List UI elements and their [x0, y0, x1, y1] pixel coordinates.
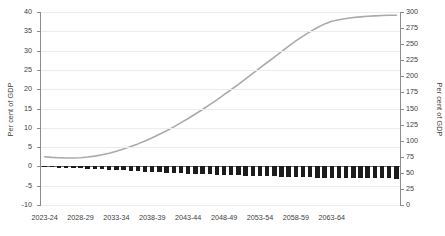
- bar: [143, 166, 147, 171]
- bar: [394, 166, 398, 178]
- gridline: [41, 31, 400, 32]
- chart-container: Per cent of GDP Per cent of GDP 40353025…: [0, 0, 445, 236]
- y-axis-left-tick: [37, 186, 40, 187]
- bar: [322, 166, 326, 177]
- bar: [301, 166, 305, 177]
- bar: [150, 166, 154, 172]
- y-axis-right-tick-label: 275: [406, 24, 432, 32]
- gridline: [41, 186, 400, 187]
- y-axis-left-tick-label: 25: [6, 66, 32, 74]
- bar: [351, 166, 355, 178]
- x-axis-tick-label: 2053-54: [240, 213, 280, 222]
- debt-line-path: [45, 15, 397, 158]
- x-axis-tick-label: 2048-49: [204, 213, 244, 222]
- bar: [373, 166, 377, 178]
- y-axis-right-tick-label: 125: [406, 121, 432, 129]
- bar: [365, 166, 369, 178]
- gridline: [41, 128, 400, 129]
- bar: [236, 166, 240, 175]
- y-axis-left-tick-label: 5: [6, 143, 32, 151]
- bar: [42, 166, 46, 167]
- y-axis-right-tick-label: 50: [406, 169, 432, 177]
- x-axis-tick-label: 2043-44: [168, 213, 208, 222]
- bar: [85, 166, 89, 168]
- bar: [294, 166, 298, 177]
- y-axis-left-tick: [37, 128, 40, 129]
- bar: [208, 166, 212, 174]
- y-axis-left-tick: [37, 31, 40, 32]
- bar: [358, 166, 362, 178]
- bar: [164, 166, 168, 172]
- bar: [129, 166, 133, 170]
- gridline: [41, 70, 400, 71]
- y-axis-right-tick: [401, 189, 404, 190]
- bar: [330, 166, 334, 177]
- y-axis-right-tick-label: 200: [406, 72, 432, 80]
- bar: [279, 166, 283, 176]
- bar: [172, 166, 176, 173]
- bar: [107, 166, 111, 169]
- y-axis-left-tick-label: 0: [6, 162, 32, 170]
- y-axis-left-tick: [37, 147, 40, 148]
- y-axis-left-tick: [37, 51, 40, 52]
- x-axis-tick-label: 2023-24: [25, 213, 65, 222]
- y-axis-right-tick: [401, 28, 404, 29]
- bar: [286, 166, 290, 176]
- y-axis-left-tick-label: 30: [6, 47, 32, 55]
- bar: [229, 166, 233, 175]
- y-axis-left-tick-label: -10: [6, 201, 32, 209]
- y-axis-left-tick: [37, 12, 40, 13]
- y-axis-left-tick: [37, 166, 40, 167]
- y-axis-right-tick-label: 300: [406, 8, 432, 16]
- y-axis-right-tick: [401, 92, 404, 93]
- gridline: [41, 109, 400, 110]
- y-axis-left-tick-label: 10: [6, 124, 32, 132]
- bar: [78, 166, 82, 168]
- bar: [265, 166, 269, 176]
- y-axis-right-tick: [401, 76, 404, 77]
- y-axis-right-tick: [401, 125, 404, 126]
- bar: [344, 166, 348, 178]
- y-axis-left-tick: [37, 70, 40, 71]
- y-axis-right-tick-label: 250: [406, 40, 432, 48]
- bar: [272, 166, 276, 176]
- bar: [387, 166, 391, 178]
- bar: [64, 166, 68, 167]
- bar: [100, 166, 104, 169]
- x-axis-tick-label: 2058-59: [276, 213, 316, 222]
- y-axis-right-tick-label: 175: [406, 88, 432, 96]
- x-axis-tick-label: 2038-39: [132, 213, 172, 222]
- y-axis-right-tick-label: 0: [406, 201, 432, 209]
- bar: [315, 166, 319, 177]
- y-axis-right-tick: [401, 109, 404, 110]
- y-axis-right-title: Per cent of GDP: [435, 67, 444, 153]
- bar: [114, 166, 118, 170]
- bar: [258, 166, 262, 176]
- y-axis-left-tick-label: -5: [6, 182, 32, 190]
- y-axis-left-tick: [37, 89, 40, 90]
- bar: [93, 166, 97, 169]
- y-axis-left-tick-label: 35: [6, 27, 32, 35]
- bar: [179, 166, 183, 173]
- bar: [57, 166, 61, 167]
- y-axis-right-tick: [401, 157, 404, 158]
- y-axis-left-tick: [37, 205, 40, 206]
- y-axis-right-tick: [401, 141, 404, 142]
- y-axis-right-tick: [401, 44, 404, 45]
- gridline: [41, 12, 400, 13]
- gridline: [41, 205, 400, 206]
- gridline: [41, 89, 400, 90]
- bar: [157, 166, 161, 172]
- bar: [251, 166, 255, 175]
- y-axis-right-tick-label: 225: [406, 56, 432, 64]
- y-axis-right-tick-label: 75: [406, 153, 432, 161]
- x-axis-tick-label: 2028-29: [61, 213, 101, 222]
- gridline: [41, 51, 400, 52]
- y-axis-left-tick-label: 20: [6, 85, 32, 93]
- x-axis-tick-label: 2033-34: [96, 213, 136, 222]
- y-axis-right-tick-label: 150: [406, 105, 432, 113]
- y-axis-right-tick-label: 100: [406, 137, 432, 145]
- x-axis-tick-label: 2063-64: [312, 213, 352, 222]
- bar: [71, 166, 75, 168]
- y-axis-right-tick: [401, 12, 404, 13]
